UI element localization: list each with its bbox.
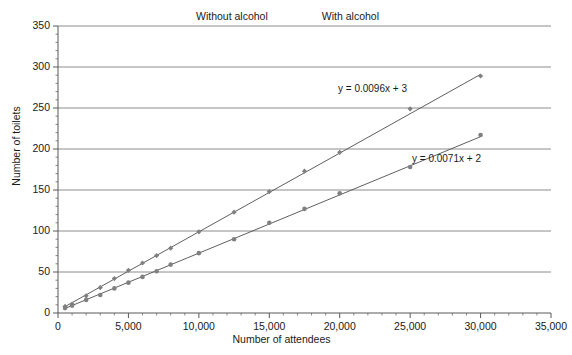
- data-point: [126, 280, 131, 285]
- data-point: [98, 293, 103, 298]
- x-tick-label: 35,000: [521, 320, 572, 332]
- data-point: [197, 251, 202, 256]
- data-point: [70, 303, 75, 308]
- trendline-equation: y = 0.0071x + 2: [412, 153, 481, 164]
- data-point: [140, 275, 145, 280]
- x-tick-label: 15,000: [239, 320, 299, 332]
- data-point: [63, 306, 68, 311]
- y-tick-label: 50: [16, 265, 50, 277]
- data-point: [84, 298, 89, 303]
- data-point: [478, 133, 483, 138]
- data-point: [232, 237, 237, 242]
- data-point: [196, 229, 201, 234]
- y-tick-label: 200: [16, 142, 50, 154]
- x-tick-label: 5,000: [98, 320, 158, 332]
- x-tick-label: 10,000: [169, 320, 229, 332]
- trendline-equation: y = 0.0096x + 3: [338, 83, 407, 94]
- y-tick-label: 150: [16, 183, 50, 195]
- data-point: [267, 221, 272, 226]
- data-point: [154, 269, 159, 274]
- data-point: [168, 262, 173, 267]
- y-tick-label: 0: [16, 306, 50, 318]
- y-tick-label: 350: [16, 19, 50, 31]
- y-tick-label: 100: [16, 224, 50, 236]
- x-tick-label: 0: [28, 320, 88, 332]
- data-point: [231, 210, 236, 215]
- x-tick-label: 25,000: [380, 320, 440, 332]
- data-point: [302, 169, 307, 174]
- data-point: [112, 286, 117, 291]
- data-point: [154, 253, 159, 258]
- x-tick-label: 20,000: [310, 320, 370, 332]
- data-point: [478, 73, 483, 78]
- y-tick-label: 250: [16, 101, 50, 113]
- data-point: [337, 191, 342, 196]
- x-axis-title: Number of attendees: [0, 333, 563, 345]
- x-tick-label: 30,000: [451, 320, 511, 332]
- data-point: [302, 207, 307, 212]
- data-point: [408, 106, 413, 111]
- data-point: [408, 165, 413, 170]
- y-tick-label: 300: [16, 60, 50, 72]
